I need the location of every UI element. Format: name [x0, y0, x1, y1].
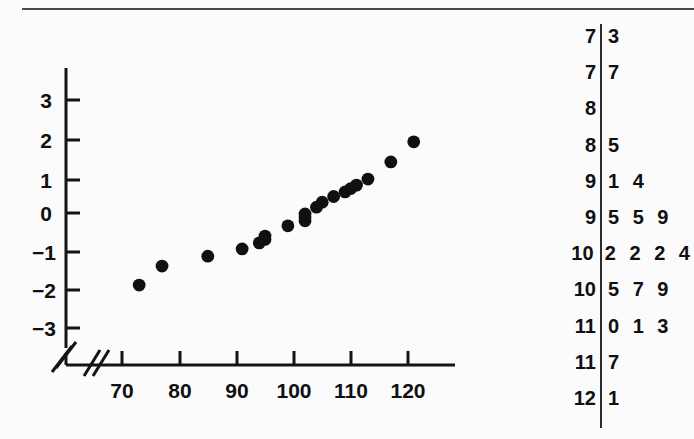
stem-value: 8	[556, 98, 596, 118]
stem-value: 11	[556, 316, 596, 336]
scatter-point	[384, 156, 397, 169]
stem-leaf-row: 77	[556, 54, 694, 90]
stem-value: 10	[556, 279, 596, 299]
scatter-point	[362, 173, 375, 186]
x-tick-label-110: 110	[334, 379, 368, 402]
leaf-values: 5	[608, 135, 623, 155]
leaf-values: 0 1 3	[608, 316, 672, 336]
stem-leaf-row: 121	[556, 380, 694, 416]
y-tick-label-2: 2	[40, 129, 52, 152]
leaf-values: 5 7 9	[608, 279, 672, 299]
scatter-point	[201, 250, 214, 263]
scatter-point	[281, 219, 294, 232]
stem-leaf-row: 117	[556, 344, 694, 380]
stem-leaf-row: 91 4	[556, 163, 694, 199]
scatter-point	[327, 190, 340, 203]
y-tick-label-neg2: −2	[32, 279, 56, 302]
leaf-values: 7	[608, 352, 623, 372]
leaf-values: 2 2 2 4	[605, 243, 694, 263]
y-tick-label-neg1: −1	[32, 241, 56, 264]
scatter-point	[133, 279, 146, 292]
y-tick-label-1: 1	[40, 169, 52, 192]
leaf-values: 1 4	[608, 171, 648, 191]
x-axis-break-icon	[84, 350, 109, 376]
stem-value: 12	[556, 388, 596, 408]
scatter-point	[299, 208, 312, 221]
scatter-point	[407, 135, 420, 148]
stem-value: 11	[556, 352, 596, 372]
x-tick-label-100: 100	[276, 379, 311, 402]
stem-leaf-row: 105 7 9	[556, 271, 694, 307]
x-tick-label-90: 90	[225, 379, 248, 402]
stem-leaf-row: 95 5 9	[556, 199, 694, 235]
stem-leaf-row: 85	[556, 127, 694, 163]
y-tick-label-3: 3	[40, 89, 52, 112]
stem-value: 10	[556, 243, 594, 263]
stem-value: 8	[556, 135, 596, 155]
stem-leaf-row: 73	[556, 18, 694, 54]
scatter-point	[236, 243, 249, 256]
probability-plot: 3 2 1 0 −1 −2 −3	[0, 20, 470, 430]
x-tick-marks	[122, 351, 408, 365]
y-axis-break-icon	[52, 342, 76, 372]
probability-plot-panel: 3 2 1 0 −1 −2 −3	[0, 20, 470, 430]
leaf-values: 5 5 9	[608, 207, 672, 227]
y-tick-label-0: 0	[40, 202, 52, 225]
stem-value: 9	[556, 171, 596, 191]
stem-value: 9	[556, 207, 596, 227]
leaf-values: 7	[608, 62, 623, 82]
leaf-values: 1	[608, 388, 623, 408]
leaf-values: 3	[608, 26, 623, 46]
stem-value: 7	[556, 62, 596, 82]
stem-and-leaf-rows: 737788591 495 5 9102 2 2 4105 7 9110 1 3…	[556, 18, 694, 416]
stem-and-leaf-display: 737788591 495 5 9102 2 2 4105 7 9110 1 3…	[556, 18, 694, 436]
figure-canvas: 3 2 1 0 −1 −2 −3	[0, 0, 694, 439]
stem-leaf-row: 102 2 2 4	[556, 235, 694, 271]
scatter-point	[316, 196, 329, 209]
x-tick-label-70: 70	[110, 379, 133, 402]
stem-leaf-row: 110 1 3	[556, 308, 694, 344]
scatter-points-layer	[133, 135, 420, 291]
stem-leaf-row: 8	[556, 90, 694, 126]
scatter-point	[156, 260, 169, 273]
header-rule	[22, 8, 694, 10]
scatter-point	[350, 179, 363, 192]
x-tick-label-120: 120	[390, 379, 425, 402]
y-tick-marks	[66, 100, 80, 328]
stem-value: 7	[556, 26, 596, 46]
x-tick-label-80: 80	[168, 379, 191, 402]
y-tick-label-neg3: −3	[32, 317, 56, 340]
scatter-point	[259, 230, 272, 243]
